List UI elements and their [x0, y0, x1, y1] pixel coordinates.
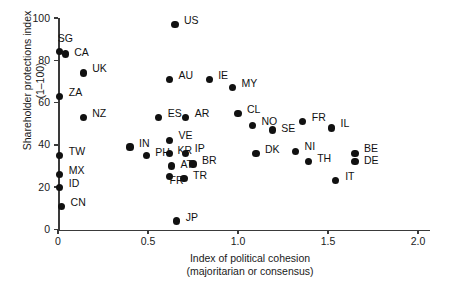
- data-point-label: NI: [305, 141, 316, 152]
- data-point: [182, 150, 189, 157]
- data-point: [168, 162, 175, 169]
- data-point-label: IT: [345, 171, 354, 182]
- data-point-label: ID: [69, 178, 80, 189]
- data-point-label: IE: [218, 70, 228, 81]
- data-point: [126, 143, 133, 150]
- data-point: [166, 76, 173, 83]
- data-point-label: JP: [186, 212, 198, 223]
- data-point: [206, 76, 213, 83]
- data-point: [166, 150, 173, 157]
- x-tick-mark: [147, 230, 149, 234]
- data-point-label: ZA: [69, 87, 82, 98]
- x-tick-mark: [327, 230, 329, 234]
- data-point-label: UK: [92, 63, 107, 74]
- data-point: [328, 124, 335, 131]
- x-tick-mark: [237, 230, 239, 234]
- data-point: [173, 217, 180, 224]
- x-axis-line: [58, 230, 430, 232]
- x-tick-label: 2.0: [401, 235, 435, 247]
- x-tick-label: 1.0: [221, 235, 255, 247]
- data-point-label: BE: [364, 143, 378, 154]
- data-point: [56, 152, 63, 159]
- data-point: [62, 50, 69, 57]
- data-point: [299, 118, 306, 125]
- data-point: [292, 148, 299, 155]
- data-point: [56, 93, 63, 100]
- data-point-label: FR: [312, 112, 326, 123]
- data-point: [166, 137, 173, 144]
- scatter-chart: 020406080100 00.51.01.52.0 USSGCAUKAUIEM…: [0, 0, 451, 292]
- data-point: [56, 184, 63, 191]
- x-axis-title: Index of political cohesion (majoritaria…: [120, 252, 380, 277]
- y-tick-mark: [54, 17, 58, 19]
- data-point-label: DK: [265, 144, 280, 155]
- data-point-label: ES: [168, 108, 182, 119]
- data-point: [229, 84, 236, 91]
- data-point-label: SE: [281, 123, 295, 134]
- data-point-label: CN: [71, 197, 86, 208]
- data-point: [56, 171, 63, 178]
- data-point: [58, 203, 65, 210]
- x-tick-mark: [417, 230, 419, 234]
- data-point: [80, 114, 87, 121]
- x-tick-label: 0.5: [131, 235, 165, 247]
- data-point-label: US: [184, 15, 199, 26]
- data-point-label: VE: [179, 130, 193, 141]
- data-point-label: MY: [242, 78, 258, 89]
- data-point-label: TW: [69, 146, 85, 157]
- data-point-label: BR: [202, 155, 217, 166]
- y-tick-mark: [54, 102, 58, 104]
- y-tick-mark: [54, 60, 58, 62]
- data-point-label: TH: [317, 153, 331, 164]
- data-point-label: IP: [195, 143, 205, 154]
- data-point: [351, 150, 358, 157]
- x-tick-label: 1.5: [311, 235, 345, 247]
- data-point-label: CA: [74, 47, 89, 58]
- y-axis-title-line2: (1–100): [33, 0, 46, 186]
- data-point-label: CL: [247, 104, 260, 115]
- data-point: [234, 110, 241, 117]
- x-tick-label: 0: [41, 235, 75, 247]
- data-point-label: AR: [195, 108, 210, 119]
- data-point: [249, 122, 256, 129]
- data-point-label: MX: [69, 165, 85, 176]
- data-point: [351, 158, 358, 165]
- data-point-label: DE: [364, 155, 379, 166]
- data-point: [269, 126, 276, 133]
- data-point-label: NO: [261, 116, 277, 127]
- data-point: [305, 158, 312, 165]
- data-point-label: NZ: [92, 108, 106, 119]
- data-point: [143, 152, 150, 159]
- data-point-label: IL: [341, 118, 350, 129]
- data-point-label: IN: [139, 138, 150, 149]
- data-point: [189, 160, 196, 167]
- data-point-label: AU: [179, 70, 194, 81]
- data-point-label: SG: [58, 33, 73, 44]
- data-point: [180, 175, 187, 182]
- data-point: [155, 114, 162, 121]
- data-point: [182, 114, 189, 121]
- data-point-label: TR: [193, 170, 207, 181]
- data-point: [80, 69, 87, 76]
- x-axis-title-line2: (majoritarian or consensus): [120, 265, 380, 278]
- y-axis-title-line1: Shareholder protections index: [21, 0, 34, 186]
- y-axis-title: Shareholder protections index (1–100): [21, 0, 46, 186]
- data-point: [252, 150, 259, 157]
- x-axis-title-line1: Index of political cohesion: [120, 252, 380, 265]
- y-tick-label: 0: [24, 223, 50, 235]
- x-tick-mark: [57, 230, 59, 234]
- y-tick-mark: [54, 144, 58, 146]
- data-point: [332, 177, 339, 184]
- data-point: [171, 21, 178, 28]
